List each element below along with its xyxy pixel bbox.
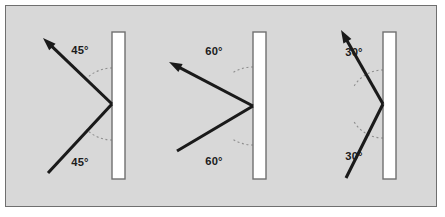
mirror-surface bbox=[112, 32, 125, 179]
upper-angle-label: 30° bbox=[345, 46, 363, 58]
reflected-ray-arrowhead bbox=[169, 62, 183, 72]
lower-angle-label: 45° bbox=[71, 156, 89, 168]
reflected-ray bbox=[177, 66, 253, 106]
lower-angle-arc bbox=[87, 129, 112, 140]
mirror-surface bbox=[253, 32, 266, 179]
diagram-60: 60° 60° bbox=[169, 32, 266, 179]
figure-panel: 45° 45° 60° 60° bbox=[5, 5, 437, 207]
mirror-surface bbox=[383, 32, 396, 179]
upper-angle-arc bbox=[87, 68, 112, 79]
incident-ray bbox=[346, 104, 383, 178]
lower-angle-label: 30° bbox=[345, 150, 363, 162]
upper-angle-label: 45° bbox=[71, 44, 89, 56]
upper-angle-arc bbox=[234, 67, 254, 72]
diagram-45: 45° 45° bbox=[43, 32, 125, 179]
incident-ray bbox=[177, 106, 253, 151]
diagram-canvas: 45° 45° 60° 60° bbox=[6, 6, 436, 206]
upper-angle-label: 60° bbox=[205, 45, 223, 57]
reflected-ray-arrowhead bbox=[341, 30, 351, 44]
diagram-30: 30° 30° bbox=[341, 30, 396, 179]
lower-angle-label: 60° bbox=[205, 155, 223, 167]
lower-angle-arc bbox=[234, 140, 254, 145]
reflection-figure: 45° 45° 60° 60° bbox=[0, 0, 445, 217]
